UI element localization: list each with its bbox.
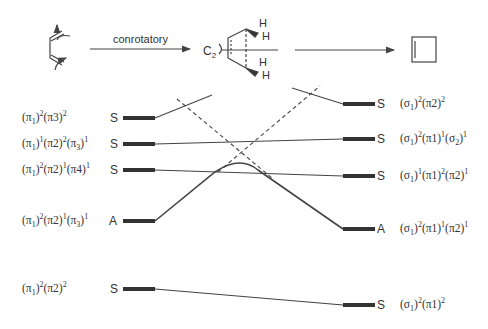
right-sym-3: S xyxy=(377,170,385,182)
left-config-5: (π1)2(π2)2 xyxy=(22,283,67,295)
right-level-bars xyxy=(343,102,375,307)
left-config-1: (π1)2(π3)2 xyxy=(22,112,67,124)
right-config-5: (σ1)2(π1)2 xyxy=(400,299,445,311)
hydrogen-4: H xyxy=(262,70,270,81)
right-config-4: (σ1)2(π1)1(π2)1 xyxy=(400,223,468,235)
left-sym-5: S xyxy=(110,283,118,295)
hydrogen-3: H xyxy=(259,57,267,68)
c2-axis-label: C2 xyxy=(203,45,216,57)
correlation-lines xyxy=(155,88,343,305)
conrotatory-label: conrotatory xyxy=(113,34,168,45)
cyclobutene-structure xyxy=(412,37,436,62)
left-sym-2: S xyxy=(110,138,118,150)
hydrogen-2: H xyxy=(262,31,270,42)
right-config-1: (σ1)2(π2)2 xyxy=(400,98,445,110)
right-sym-2: S xyxy=(377,133,385,145)
left-config-3: (π1)2(π2)1(π4)1 xyxy=(22,164,90,176)
right-sym-4: A xyxy=(377,223,385,235)
right-sym-1: S xyxy=(377,98,385,110)
left-config-4: (π1)2(π2)1(π3)1 xyxy=(22,215,88,227)
hydrogen-1: H xyxy=(259,18,267,29)
left-sym-4: A xyxy=(109,215,117,227)
left-sym-1: S xyxy=(110,112,118,124)
left-sym-3: S xyxy=(110,164,118,176)
right-config-3: (σ1)1(π1)2(π2)1 xyxy=(400,170,468,182)
right-config-2: (σ1)2(π1)1(σ2)1 xyxy=(400,133,467,145)
left-level-bars xyxy=(123,116,155,291)
butadiene-structure xyxy=(50,25,70,70)
right-sym-5: S xyxy=(377,299,385,311)
left-config-2: (π1)1(π2)2(π3)1 xyxy=(22,138,88,150)
